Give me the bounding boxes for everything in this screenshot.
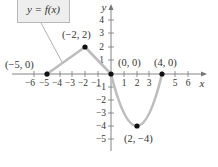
x-tick-label: −4 bbox=[52, 78, 62, 88]
y-axis-label: y bbox=[101, 1, 107, 13]
y-tick-label: −4 bbox=[96, 121, 106, 131]
point-marker bbox=[44, 71, 49, 76]
y-tick-label: −5 bbox=[96, 134, 106, 144]
x-axis-label: x bbox=[199, 77, 205, 89]
x-tick-label: 6 bbox=[186, 78, 191, 88]
x-tick-label: 5 bbox=[173, 78, 178, 88]
point-marker bbox=[82, 44, 87, 49]
x-axis-arrow-icon bbox=[201, 72, 207, 77]
point-label: (0, 0) bbox=[118, 57, 141, 69]
point-marker bbox=[134, 123, 139, 128]
function-graph: −6 −5 −4 −3 −2 −1 1 2 3 5 6 x 4 3 2 1 −1 bbox=[0, 0, 218, 167]
y-tick-label: 3 bbox=[99, 28, 104, 38]
x-tick-label: −2 bbox=[78, 78, 88, 88]
point-marker bbox=[108, 71, 113, 76]
x-tick-label: −3 bbox=[65, 78, 75, 88]
x-tick-label: 3 bbox=[147, 78, 152, 88]
legend-label: y = f(x) bbox=[18, 3, 69, 15]
point-marker bbox=[159, 71, 164, 76]
x-tick-label: 2 bbox=[135, 78, 140, 88]
point-label: (−5, 0) bbox=[5, 59, 34, 71]
point-label: (4, 0) bbox=[154, 57, 177, 69]
x-tick-label: −6 bbox=[25, 78, 35, 88]
y-tick-label: −2 bbox=[96, 95, 106, 105]
point-label: (2, −4) bbox=[124, 133, 153, 145]
x-tick-label: −5 bbox=[39, 78, 49, 88]
point-label: (−2, 2) bbox=[62, 29, 91, 41]
legend-leader-line bbox=[41, 23, 62, 62]
y-tick-label: 4 bbox=[99, 15, 104, 25]
y-tick-label: 2 bbox=[99, 42, 104, 52]
y-axis-arrow-icon bbox=[109, 4, 114, 10]
y-tick-label: −3 bbox=[96, 108, 106, 118]
y-tick-label: −1 bbox=[96, 82, 106, 92]
x-tick-label: 1 bbox=[122, 78, 127, 88]
legend-box: y = f(x) bbox=[17, 0, 70, 23]
